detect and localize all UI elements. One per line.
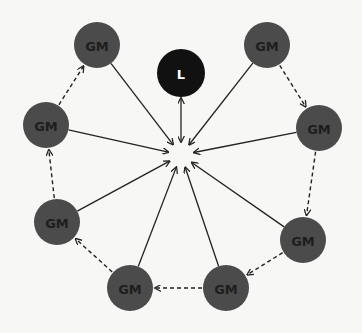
gm-node: GM — [34, 199, 80, 245]
gm-node: GM — [23, 102, 69, 148]
gm-node: GM — [280, 217, 326, 263]
gm-node-label: GM — [255, 39, 279, 54]
gm-node-label: GM — [118, 282, 142, 297]
dashed-edge-gm4-to-gm3 — [76, 239, 113, 272]
gm-node: GM — [296, 105, 342, 151]
gm-node: GM — [244, 22, 290, 68]
dashed-edge-gm8-to-gm7 — [280, 65, 306, 106]
gossip-diagram: GMGMGMGMGMGMGMGM L — [0, 0, 362, 333]
gm-node-label: GM — [214, 282, 238, 297]
gm-node-label: GM — [45, 216, 69, 231]
dashed-edge-gm6-to-gm5 — [247, 253, 282, 275]
dashed-edges — [49, 65, 316, 288]
gm-node-label: GM — [291, 234, 315, 249]
gm-node: GM — [107, 265, 153, 311]
edge-gm3-to-hub — [77, 161, 169, 211]
edge-gm2-to-hub — [68, 130, 168, 152]
leader-node: L — [157, 49, 205, 97]
edge-gm5-to-hub — [185, 167, 218, 266]
edge-gm7-to-hub — [194, 132, 297, 152]
gm-node-label: GM — [34, 119, 58, 134]
leader-node-label: L — [177, 67, 185, 82]
dashed-edge-gm7-to-gm6 — [307, 152, 316, 215]
dashed-edge-gm3-to-gm2 — [49, 150, 54, 198]
gm-node: GM — [74, 22, 120, 68]
edge-gm6-to-hub — [192, 162, 284, 226]
edge-gm4-to-hub — [138, 167, 176, 266]
gm-node: GM — [203, 265, 249, 311]
gm-node-label: GM — [85, 39, 109, 54]
gm-node-label: GM — [307, 122, 331, 137]
dashed-edge-gm2-to-gm1 — [59, 66, 84, 105]
